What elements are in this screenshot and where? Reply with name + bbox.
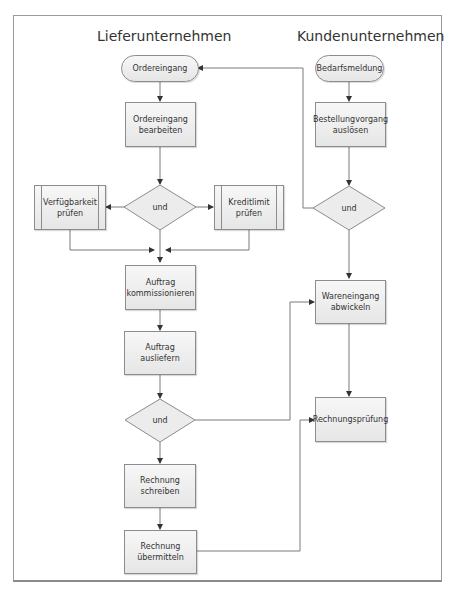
process-rechnung-schreiben: Rechnung schreiben <box>124 464 196 508</box>
node-label: Ordereingang bearbeiten <box>133 114 188 136</box>
node-label: Wareneingang abwickeln <box>322 291 380 313</box>
node-label: Auftrag kommissionieren <box>127 277 195 299</box>
node-label: Verfügbarkeit prüfen <box>43 197 97 219</box>
node-label: Rechnungsprüfung <box>313 414 389 425</box>
process-ordereingang-bearbeiten: Ordereingang bearbeiten <box>125 102 196 147</box>
node-label: Bedarfsmeldung <box>317 63 383 74</box>
node-label: Ordereingang <box>133 63 188 74</box>
node-label: Rechnung übermitteln <box>137 541 184 563</box>
process-wareneingang-abwickeln: Wareneingang abwickeln <box>315 280 386 324</box>
process-bestellungvorgang-ausloesen: Bestellungvorgang auslösen <box>315 102 386 147</box>
process-auftrag-kommissionieren: Auftrag kommissionieren <box>125 265 196 310</box>
node-label: Bestellungvorgang auslösen <box>313 114 388 136</box>
subprocess-verfuegbarkeit-pruefen: Verfügbarkeit prüfen <box>34 185 106 230</box>
node-label: Rechnung schreiben <box>140 475 180 497</box>
subprocess-kreditlimit-pruefen: Kreditlimit prüfen <box>214 185 284 230</box>
start-bedarfsmeldung: Bedarfsmeldung <box>315 55 384 82</box>
decision-label-und-1: und <box>152 203 167 212</box>
decision-label-und-3: und <box>341 204 356 213</box>
start-ordereingang: Ordereingang <box>121 55 199 82</box>
node-label: Auftrag ausliefern <box>140 342 179 364</box>
node-label: Kreditlimit prüfen <box>228 197 269 219</box>
process-rechnung-uebermitteln: Rechnung übermitteln <box>124 530 197 574</box>
decision-label-und-2: und <box>152 416 167 425</box>
process-rechnungspruefung: Rechnungsprüfung <box>315 397 386 442</box>
process-auftrag-ausliefern: Auftrag ausliefern <box>124 331 196 375</box>
